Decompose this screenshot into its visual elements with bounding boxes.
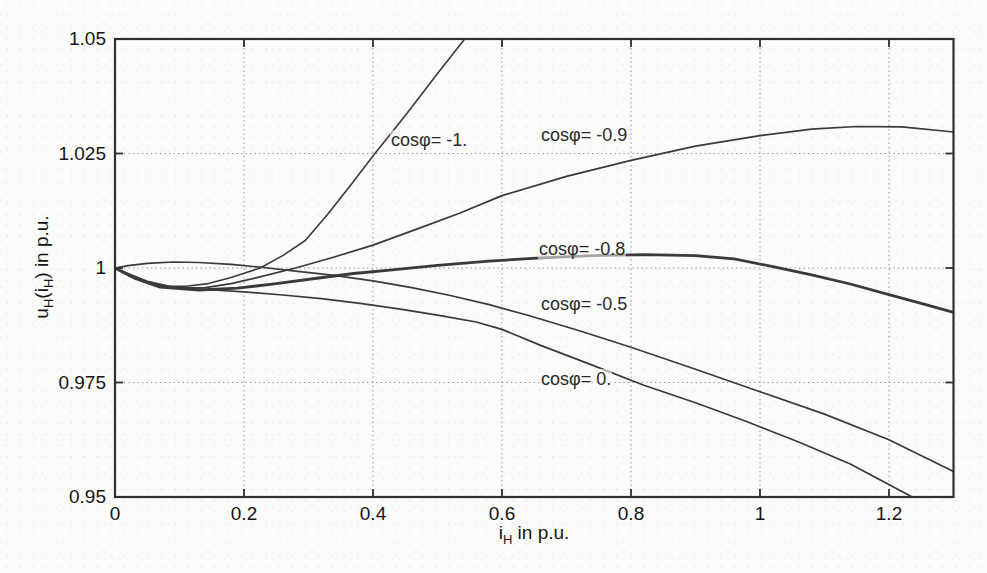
gridlines <box>115 39 954 497</box>
x-tick-label-0.4: 0.4 <box>360 503 386 525</box>
x-axis-label-subscript: H <box>503 532 512 547</box>
x-tick-label-1.2: 1.2 <box>876 503 902 525</box>
y-tick-label-0.95: 0.95 <box>6 486 106 508</box>
curve-cos_phi_-0.5 <box>115 262 954 471</box>
curve-label-cos-phi-neg-0-8: cosφ= -0.8 <box>538 239 626 259</box>
y-tick-label-1: 1 <box>6 257 106 279</box>
curve-label-cos-phi-neg-1: cosφ= -1. <box>390 130 468 150</box>
curve-cos_phi_-1 <box>115 37 467 287</box>
plot-canvas <box>0 0 987 573</box>
x-tick-label-0.2: 0.2 <box>231 503 257 525</box>
curves <box>115 37 954 497</box>
curve-cos_phi_0 <box>115 268 912 497</box>
x-tick-label-0: 0 <box>110 503 121 525</box>
y-axis-label-subscript-1: H <box>41 299 56 308</box>
x-tick-label-1: 1 <box>755 503 766 525</box>
y-tick-label-0.975: 0.975 <box>6 372 106 394</box>
curve-label-cos-phi-neg-0-5: cosφ= -0.5 <box>540 294 628 314</box>
x-axis-label-unit: in p.u. <box>512 522 569 543</box>
x-axis-label: iH in p.u. <box>499 522 570 544</box>
x-tick-label-0.8: 0.8 <box>618 503 644 525</box>
y-tick-label-1.05: 1.05 <box>6 28 106 50</box>
y-axis-label-arg: (i <box>31 288 52 299</box>
y-axis-label-symbol: u <box>31 308 52 319</box>
chart-figure: cosφ= -1. cosφ= -0.9 cosφ= -0.8 cosφ= -0… <box>0 0 987 573</box>
x-tick-label-0.6: 0.6 <box>489 503 515 525</box>
curve-cos_phi_-0.8 <box>115 255 954 313</box>
curve-label-cos-phi-neg-0-9: cosφ= -0.9 <box>540 125 628 145</box>
curve-label-cos-phi-0: cosφ= 0. <box>540 369 612 389</box>
y-axis-label-subscript-2: H <box>41 279 56 288</box>
y-tick-label-1.025: 1.025 <box>6 143 106 165</box>
curve-cos_phi_-0.9 <box>115 127 954 289</box>
